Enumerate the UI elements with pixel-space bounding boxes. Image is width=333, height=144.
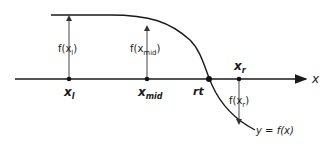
point-x-l [67, 77, 72, 82]
f-xmid-label: f(xmid) [130, 43, 161, 57]
function-curve [51, 15, 255, 130]
x-l-label: xl [63, 85, 75, 101]
point-x-mid [145, 77, 150, 82]
point-x-r [237, 77, 242, 82]
x-mid-label: xmid [137, 85, 163, 101]
bisection-diagram: x f(xl) f(xmid) f(xr) xl xmid rt xr y = … [0, 0, 333, 144]
rt-label: rt [193, 85, 204, 98]
x-r-label: xr [233, 59, 247, 75]
curve-label: y = f(x) [255, 125, 294, 136]
x-axis-label: x [311, 72, 320, 86]
point-root [206, 76, 212, 82]
f-xl-label: f(xl) [58, 43, 77, 57]
